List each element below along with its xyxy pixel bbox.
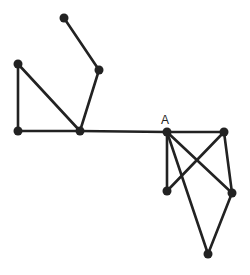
node-a — [163, 128, 172, 137]
node-n8 — [163, 187, 172, 196]
node-n2 — [95, 66, 104, 75]
edge-n9-n10 — [208, 193, 232, 254]
edge-n3-n5 — [18, 64, 80, 131]
node-n9 — [228, 189, 237, 198]
edge-n5-A — [80, 131, 167, 132]
nodes — [14, 14, 237, 259]
edge-n7-n9 — [224, 132, 232, 193]
graph-diagram: A — [0, 0, 250, 275]
edges — [18, 18, 232, 254]
node-n5 — [76, 127, 85, 136]
node-n7 — [220, 128, 229, 137]
edge-n2-n5 — [80, 70, 99, 131]
node-n10 — [204, 250, 213, 259]
node-n1 — [60, 14, 69, 23]
edge-n1-n2 — [64, 18, 99, 70]
node-n4 — [14, 127, 23, 136]
node-label-a: A — [161, 113, 169, 127]
node-n3 — [14, 60, 23, 69]
